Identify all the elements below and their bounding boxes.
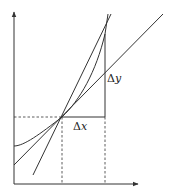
derivative-diagram: Δy Δx: [0, 0, 171, 194]
curve: [14, 14, 108, 146]
delta-y-label: Δy: [107, 72, 122, 85]
secant-line: [33, 14, 111, 175]
delta-x-label: Δx: [73, 120, 88, 133]
tangent-line: [14, 14, 163, 165]
